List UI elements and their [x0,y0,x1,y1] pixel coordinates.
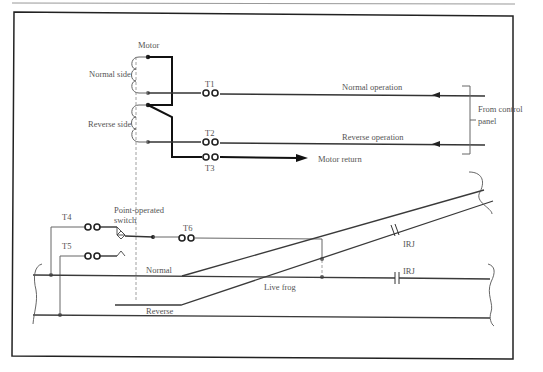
terminal-t1-icon [203,90,218,96]
track-break-lower-right-icon [488,264,494,326]
point-operated-switch-label: Point-operated [114,205,165,215]
motor-return-wire [220,157,298,158]
reverse-operation-wire [220,143,485,145]
terminal-t3-icon [203,154,218,160]
t6-label: T6 [183,223,192,233]
normal-rail-beyond-irj [399,278,490,279]
outer-rail [33,315,490,318]
normal-operation-label: Normal operation [342,82,403,92]
terminal-t2-icon [203,139,218,145]
arrow-left-icon [432,141,440,147]
irj-upper-label: IRJ [403,239,416,249]
diagram-frame [12,12,513,359]
motor-label: Motor [138,40,159,50]
normal-side-coil-icon [132,57,147,93]
t4-feed-wire [51,227,86,275]
diverging-rail-lower [115,201,493,305]
top-rule [12,3,515,4]
normal-operation-wire [220,94,485,96]
motor-return-label: Motor return [318,154,362,164]
switch-common-wire [125,236,153,237]
irj-lower-label: IRJ [403,266,416,276]
terminal-t4-icon [85,224,100,230]
normal-track-label: Normal [146,265,173,275]
reverse-side-label: Reverse side [88,119,131,129]
terminal-t6-icon [179,235,194,241]
wiring-diagram: Motor Normal side Reverse side T1 T2 T3 … [0,0,543,372]
irj-lower-icon [395,272,399,284]
arrow-right-icon [296,154,308,162]
t1-label: T1 [205,79,214,89]
t5-label: T5 [62,241,71,251]
arrow-left-icon [432,92,440,98]
from-control-panel-label-2: panel [478,116,497,126]
terminal-t5-icon [85,253,100,259]
live-frog-label: Live frog [264,282,297,292]
reverse-track-label: Reverse [146,306,174,316]
from-control-panel-label: From control [478,104,523,114]
t3-label: T3 [205,163,214,173]
point-operated-switch-label-2: switch [114,215,137,225]
reverse-side-coil-icon [132,105,147,142]
reverse-operation-label: Reverse operation [342,132,404,142]
t4-label: T4 [62,212,72,222]
normal-side-label: Normal side [89,69,131,79]
t2-label: T2 [205,128,214,138]
point-operated-switch-icon [117,227,125,256]
t5-feed-wire [60,256,86,315]
diverging-rail-upper [182,190,484,276]
normal-rail [33,275,395,278]
